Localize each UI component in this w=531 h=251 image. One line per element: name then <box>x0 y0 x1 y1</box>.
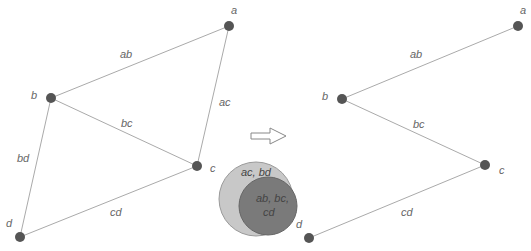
edge-label-cd: cd <box>401 206 414 218</box>
node-label-d: d <box>6 217 13 229</box>
node-label-a: a <box>520 4 526 16</box>
node-d <box>304 233 314 243</box>
node-label-b: b <box>31 89 37 101</box>
node-label-b: b <box>322 90 328 102</box>
edge-label-ab: ab <box>120 48 132 60</box>
node-b <box>46 93 56 103</box>
edge-bc <box>342 99 485 165</box>
venn-inner-label-line1: ab, bc, <box>256 192 289 204</box>
edge-cd <box>20 166 197 237</box>
edge-label-bc: bc <box>413 118 425 130</box>
venn-outer-label: ac, bd <box>241 166 272 178</box>
node-label-c: c <box>210 162 216 174</box>
edge-ab <box>342 26 518 99</box>
node-c <box>480 160 490 170</box>
node-label-a: a <box>231 4 237 16</box>
edge-label-cd: cd <box>110 206 123 218</box>
right-arrow-icon <box>251 128 286 144</box>
right-graph: ab bc cd a b c d <box>296 4 526 243</box>
edge-bc <box>51 98 197 166</box>
edge-label-bc: bc <box>121 117 133 129</box>
node-b <box>337 94 347 104</box>
node-d <box>15 232 25 242</box>
diagram-canvas: ab ac bc bd cd a b c d ac, bd ab, bc, cd… <box>0 0 531 251</box>
edge-label-ac: ac <box>219 96 231 108</box>
edge-bd <box>20 98 51 237</box>
node-a <box>224 21 234 31</box>
edge-ab <box>51 26 229 98</box>
left-graph: ab ac bc bd cd a b c d <box>6 4 237 242</box>
edge-label-ab: ab <box>410 48 422 60</box>
node-label-d: d <box>296 218 303 230</box>
node-a <box>513 21 523 31</box>
edge-cd <box>309 165 485 238</box>
edge-label-bd: bd <box>17 152 30 164</box>
venn-diagram: ac, bd ab, bc, cd <box>219 162 297 236</box>
venn-inner-label-line2: cd <box>263 206 276 218</box>
node-c <box>192 161 202 171</box>
node-label-c: c <box>499 164 505 176</box>
